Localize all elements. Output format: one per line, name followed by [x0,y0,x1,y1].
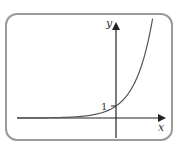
y-axis-label: y [105,17,113,30]
exponential-curve [17,19,153,118]
intercept-label: 1 [101,101,107,112]
plot-svg: 1 y x [0,0,180,145]
chart-area: 1 y x [0,0,180,145]
x-axis-label: x [158,121,165,134]
